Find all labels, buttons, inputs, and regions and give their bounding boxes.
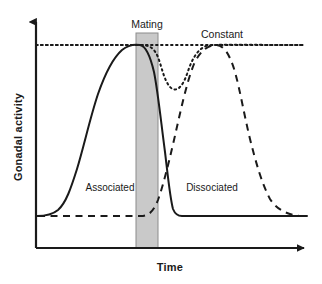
curve-constant: [36, 45, 305, 90]
x-axis-title: Time: [157, 261, 183, 273]
y-axis-title: Gonadal activity: [12, 92, 24, 181]
constant-curve-label: Constant: [201, 28, 243, 40]
gonadal-activity-figure: Gonadal activity Time Mating Constant As…: [0, 0, 322, 284]
mating-band-label: Mating: [131, 18, 163, 30]
chart-canvas: Gonadal activity Time Mating Constant As…: [0, 0, 322, 284]
dissociated-curve-label: Dissociated: [186, 182, 238, 193]
associated-curve-label: Associated: [86, 182, 135, 193]
